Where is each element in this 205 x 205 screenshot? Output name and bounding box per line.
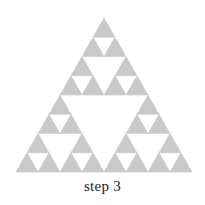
sierpinski-unit-triangle [60, 153, 82, 172]
filled-triangle-group [16, 18, 192, 172]
sierpinski-triangle-figure [0, 0, 205, 180]
sierpinski-unit-triangle [126, 153, 148, 172]
step-caption: step 3 [84, 177, 121, 196]
sierpinski-unit-triangle [38, 114, 60, 133]
sierpinski-unit-triangle [148, 114, 170, 133]
sierpinski-unit-triangle [104, 153, 126, 172]
sierpinski-unit-triangle [104, 76, 126, 95]
sierpinski-unit-triangle [82, 153, 104, 172]
sierpinski-unit-triangle [38, 153, 60, 172]
caption-row: step 3 [0, 177, 205, 196]
sierpinski-unit-triangle [82, 37, 104, 56]
sierpinski-unit-triangle [126, 76, 148, 95]
sierpinski-unit-triangle [104, 37, 126, 56]
sierpinski-unit-triangle [148, 153, 170, 172]
sierpinski-triangle-canvas [0, 0, 205, 180]
sierpinski-unit-triangle [115, 134, 137, 153]
sierpinski-unit-triangle [82, 76, 104, 95]
sierpinski-unit-triangle [16, 153, 38, 172]
figure-root: step 3 [0, 0, 205, 205]
sierpinski-unit-triangle [159, 134, 181, 153]
sierpinski-unit-triangle [60, 76, 82, 95]
sierpinski-unit-triangle [126, 114, 148, 133]
sierpinski-unit-triangle [27, 134, 49, 153]
sierpinski-unit-triangle [115, 57, 137, 76]
sierpinski-unit-triangle [71, 57, 93, 76]
sierpinski-unit-triangle [60, 114, 82, 133]
sierpinski-unit-triangle [170, 153, 192, 172]
sierpinski-unit-triangle [93, 18, 115, 37]
sierpinski-unit-triangle [49, 95, 71, 114]
sierpinski-unit-triangle [71, 134, 93, 153]
sierpinski-unit-triangle [137, 95, 159, 114]
